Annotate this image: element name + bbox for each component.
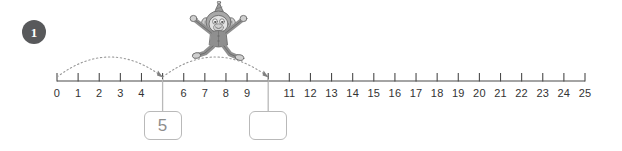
tick-label-25: 25: [573, 87, 597, 99]
tick-label-9: 9: [235, 87, 259, 99]
answer-box-2[interactable]: [249, 111, 287, 140]
answer-box-1[interactable]: 5: [144, 111, 182, 140]
tick-marks: [57, 73, 585, 82]
jump-1-arc: [57, 57, 163, 77]
tick-label-4: 4: [129, 87, 153, 99]
number-line-graphic: [0, 0, 622, 151]
worksheet-page: 1: [0, 0, 622, 151]
answer-box-1-value: 5: [158, 117, 167, 134]
jump-2-arc: [163, 57, 269, 77]
